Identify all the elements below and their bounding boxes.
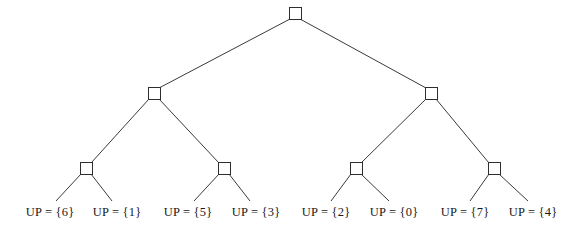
tree-node-root[interactable] — [289, 7, 301, 19]
leaf-label-4: UP = {4} — [509, 205, 558, 220]
tree-edge — [331, 174, 351, 201]
tree-node-n-ll[interactable] — [80, 162, 92, 174]
tree-edge — [499, 174, 528, 201]
tree-node-n-rl[interactable] — [350, 162, 362, 174]
tree-node-n-rr[interactable] — [488, 162, 500, 174]
leaf-label-6: UP = {6} — [26, 205, 75, 220]
tree-edge — [361, 99, 426, 163]
tree-edge — [436, 99, 489, 163]
tree-node-n-lr[interactable] — [218, 162, 230, 174]
tree-edge — [91, 174, 112, 201]
tree-edge — [470, 174, 489, 201]
tree-node-n-r[interactable] — [425, 87, 437, 99]
tree-edge — [229, 174, 250, 201]
tree-edge — [159, 99, 219, 163]
node-group — [80, 7, 500, 174]
tree-edge — [361, 174, 389, 201]
tree-edge — [56, 174, 81, 201]
tree-node-n-l[interactable] — [148, 87, 160, 99]
tree-diagram: UP = {6}UP = {1}UP = {5}UP = {3}UP = {2}… — [0, 0, 579, 228]
leaf-label-1: UP = {1} — [93, 205, 142, 220]
tree-edge — [91, 99, 149, 163]
tree-graphics-layer — [0, 0, 579, 228]
tree-edge — [300, 19, 426, 88]
leaf-label-5: UP = {5} — [164, 205, 213, 220]
leaf-label-7: UP = {7} — [441, 205, 490, 220]
edge-group — [56, 19, 528, 201]
leaf-label-2: UP = {2} — [302, 205, 351, 220]
leaf-label-0: UP = {0} — [370, 205, 419, 220]
tree-edge — [194, 174, 219, 201]
leaf-label-3: UP = {3} — [232, 205, 281, 220]
tree-edge — [159, 19, 290, 88]
